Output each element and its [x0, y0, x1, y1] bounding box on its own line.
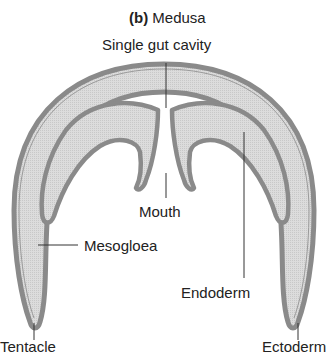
figure-title-prefix: (b): [129, 9, 148, 26]
figure-title-text: Medusa: [152, 9, 205, 26]
label-ectoderm: Ectoderm: [262, 338, 326, 355]
figure-title: (b) Medusa: [129, 9, 206, 26]
medusa-diagram: (b) Medusa Single gut cavity Mouth Mesog…: [0, 0, 329, 359]
label-mouth: Mouth: [139, 203, 181, 220]
label-endoderm: Endoderm: [181, 284, 250, 301]
label-tentacle: Tentacle: [0, 338, 56, 355]
label-gut-cavity: Single gut cavity: [102, 36, 211, 53]
label-mesogloea: Mesogloea: [84, 237, 157, 254]
medusa-illustration: [0, 0, 329, 359]
